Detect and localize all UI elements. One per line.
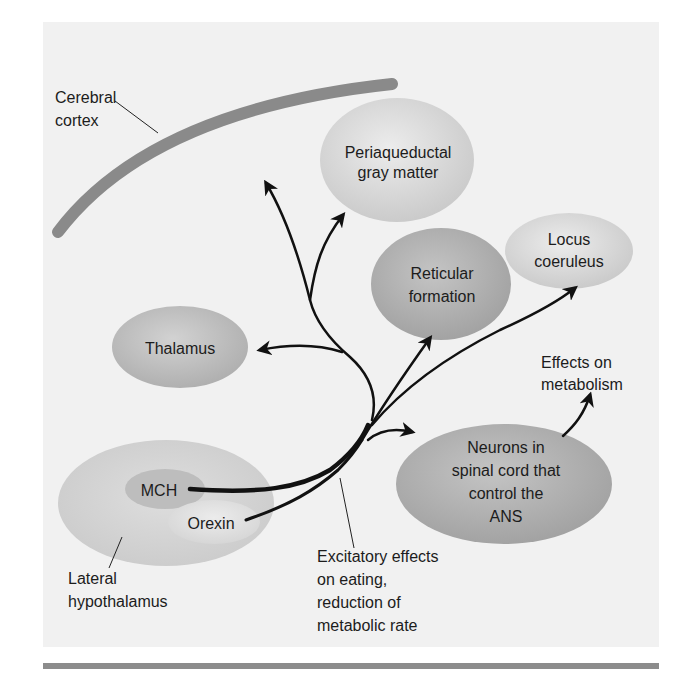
thalamus-label: Thalamus (145, 340, 215, 357)
spinal-line-4: ANS (490, 508, 523, 525)
node-thalamus: Thalamus (112, 306, 248, 388)
cortex-line-1: Cerebral (55, 89, 116, 106)
excitatory-line-2: on eating, (317, 571, 387, 588)
locus-line-1: Locus (548, 231, 591, 248)
spinal-line-3: control the (469, 485, 544, 502)
spinal-line-1: Neurons in (467, 439, 544, 456)
node-reticular-formation: Reticular formation (371, 228, 511, 340)
metabolism-line-1: Effects on (541, 354, 612, 371)
excitatory-line-4: metabolic rate (317, 617, 418, 634)
node-spinal-neurons: Neurons in spinal cord that control the … (396, 424, 612, 544)
diagram-figure: Periaqueductal gray matter Locus coerule… (0, 0, 689, 681)
periaqueductal-line-2: gray matter (358, 164, 440, 181)
locus-line-2: coeruleus (534, 253, 603, 270)
spinal-line-2: spinal cord that (452, 462, 561, 479)
mch-label: MCH (141, 482, 177, 499)
excitatory-line-3: reduction of (317, 594, 401, 611)
hypothalamus-line-2: hypothalamus (68, 593, 168, 610)
node-lateral-hypothalamus: MCH Orexin (58, 440, 274, 566)
periaqueductal-line-1: Periaqueductal (345, 144, 452, 161)
reticular-line-1: Reticular (410, 265, 474, 282)
node-locus-coeruleus: Locus coeruleus (505, 213, 633, 289)
bottom-rule (43, 663, 659, 669)
metabolism-line-2: metabolism (541, 376, 623, 393)
orexin-label: Orexin (187, 515, 234, 532)
hypothalamus-line-1: Lateral (68, 570, 117, 587)
reticular-line-2: formation (409, 288, 476, 305)
excitatory-line-1: Excitatory effects (317, 548, 439, 565)
cortex-line-2: cortex (55, 112, 99, 129)
node-periaqueductal: Periaqueductal gray matter (320, 98, 474, 222)
